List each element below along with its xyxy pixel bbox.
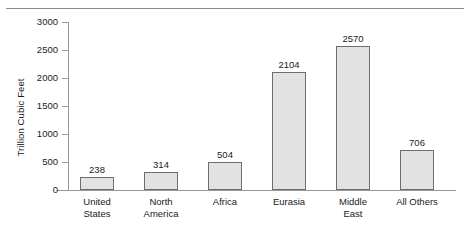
bar (208, 162, 242, 190)
y-tick-mark (62, 134, 68, 135)
bar (144, 172, 178, 190)
y-tick-label: 1000 (14, 128, 58, 139)
x-category-label: Africa (191, 196, 259, 208)
x-axis-line (57, 190, 456, 191)
bar (80, 177, 114, 190)
y-tick-mark (62, 190, 68, 191)
x-category-label: Eurasia (255, 196, 323, 208)
bar (400, 150, 434, 190)
y-tick-mark (62, 106, 68, 107)
y-tick-label: 3000 (14, 16, 58, 27)
bar (336, 46, 370, 190)
y-tick-mark (62, 50, 68, 51)
y-tick-label: 0 (14, 184, 58, 195)
y-tick-label: 1500 (14, 100, 58, 111)
bar-value-label: 706 (387, 137, 447, 148)
bar (272, 72, 306, 190)
bar-value-label: 238 (67, 164, 127, 175)
bar-value-label: 2570 (323, 33, 383, 44)
x-category-label: All Others (383, 196, 451, 208)
bar-value-label: 504 (195, 149, 255, 160)
y-tick-label: 2500 (14, 44, 58, 55)
x-category-label: Middle East (319, 196, 387, 219)
top-divider-rule (6, 8, 464, 9)
bar-value-label: 2104 (259, 59, 319, 70)
x-category-label: North America (127, 196, 195, 219)
y-tick-label: 500 (14, 156, 58, 167)
y-tick-mark (62, 22, 68, 23)
y-tick-label: 2000 (14, 72, 58, 83)
bar-chart-figure: Trillion Cubic Feet 05001000150020002500… (0, 0, 470, 236)
x-category-label: United States (63, 196, 131, 219)
y-tick-mark (62, 78, 68, 79)
bar-value-label: 314 (131, 159, 191, 170)
